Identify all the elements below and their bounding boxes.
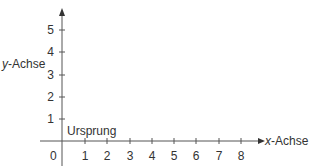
x-tick-label: 4 [149,150,156,162]
x-tick-label: 5 [171,150,178,162]
x-axis-label-text: -Achse [271,134,308,148]
y-tick-label: 5 [42,24,54,36]
x-tick-label: 3 [127,150,134,162]
x-tick-label: 7 [216,150,223,162]
x-axis-label: x-Achse [265,135,308,147]
x-tick-label: 2 [104,150,111,162]
x-tick-label: 1 [82,150,89,162]
y-axis-arrow-icon [59,8,65,16]
y-axis-label-text: -Achse [8,57,45,71]
x-tick-label: 8 [238,150,245,162]
origin-label: Ursprung [67,125,116,137]
y-tick-label: 2 [42,91,54,103]
y-axis-label: y-Achse [2,58,45,70]
x-tick-label: 6 [193,150,200,162]
y-tick-label: 1 [42,113,54,125]
origin-value: 0 [50,150,57,162]
x-axis-arrow-icon [258,138,265,144]
